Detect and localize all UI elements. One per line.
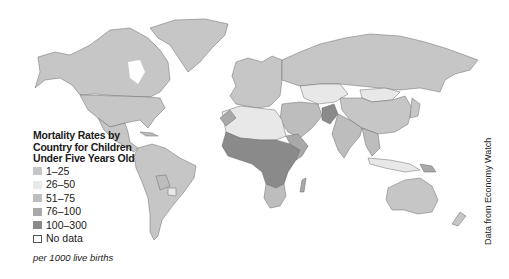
legend-item-26-50: 26–50	[33, 178, 134, 192]
legend-item-100-300: 100–300	[33, 219, 134, 233]
legend-swatch	[33, 167, 42, 175]
region-papua	[420, 164, 436, 172]
legend-title: Mortality Rates by Country for Children …	[33, 130, 134, 165]
legend-item-76-100: 76–100	[33, 205, 134, 219]
legend-label: 51–75	[46, 192, 75, 206]
region-russia	[282, 34, 478, 92]
legend-swatch	[33, 181, 42, 189]
region-middle-east	[280, 102, 322, 138]
region-japan	[410, 98, 420, 118]
legend-label: 76–100	[46, 205, 81, 219]
map-legend: Mortality Rates by Country for Children …	[33, 130, 134, 263]
legend-label: No data	[46, 232, 83, 246]
legend-label: 100–300	[46, 219, 87, 233]
legend-swatch	[33, 235, 42, 243]
legend-item-1-25: 1–25	[33, 165, 134, 179]
data-source-credit: Data from Economy Watch	[483, 138, 493, 245]
region-south-america	[134, 144, 196, 240]
region-europe	[230, 56, 282, 108]
region-madagascar	[300, 178, 306, 192]
region-caribbean	[140, 132, 158, 136]
legend-unit-note: per 1000 live births	[33, 252, 134, 263]
legend-label: 1–25	[46, 165, 69, 179]
region-southern-africa	[264, 184, 286, 208]
region-new-zealand	[452, 212, 466, 226]
legend-title-line: Under Five Years Old	[33, 153, 134, 165]
region-usa	[80, 95, 165, 128]
legend-item-51-75: 51–75	[33, 192, 134, 206]
legend-item-no-data: No data	[33, 232, 134, 246]
region-australia	[386, 178, 438, 214]
legend-swatch	[33, 208, 42, 216]
region-paraguay	[168, 188, 176, 196]
legend-title-line: Mortality Rates by	[33, 130, 134, 142]
legend-swatch	[33, 221, 42, 229]
region-north-america-north	[35, 28, 170, 97]
region-afghanistan	[322, 104, 338, 124]
legend-label: 26–50	[46, 178, 75, 192]
legend-swatch	[33, 194, 42, 202]
region-indonesia	[368, 158, 420, 172]
